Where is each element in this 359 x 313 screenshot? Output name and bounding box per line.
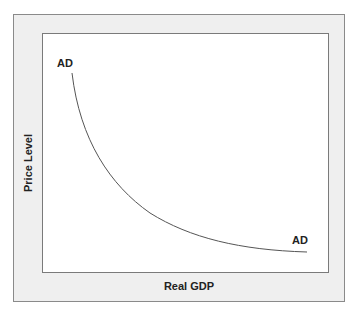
ad-label-end: AD bbox=[292, 234, 308, 246]
ad-curve-layer: AD AD bbox=[0, 0, 359, 313]
ad-curve bbox=[72, 73, 307, 252]
ad-label-start: AD bbox=[57, 57, 73, 69]
